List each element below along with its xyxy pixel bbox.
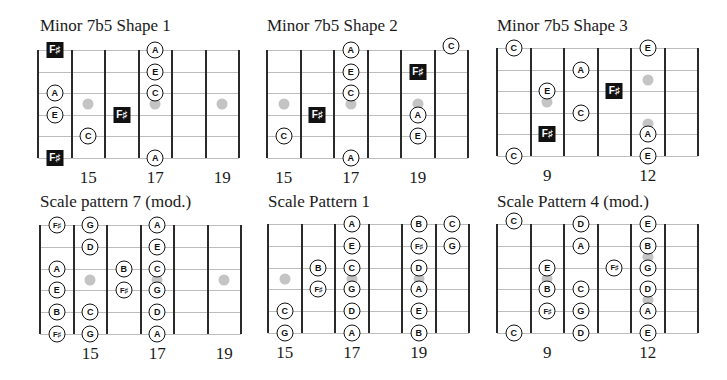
- fret-line: [240, 225, 242, 334]
- note-marker: E: [342, 63, 359, 80]
- fret-number-label: 9: [543, 343, 552, 363]
- note-marker: F♯: [539, 303, 556, 320]
- fret-line: [71, 50, 73, 158]
- fret-number-label: 19: [216, 344, 233, 364]
- note-marker: A: [48, 260, 65, 277]
- root-note-marker: F♯: [309, 107, 326, 123]
- fret-inlay-dot: [219, 274, 230, 285]
- note-marker: D: [149, 304, 166, 321]
- note-marker: B: [410, 325, 427, 342]
- panel-title: Scale Pattern 4 (mod.): [497, 192, 649, 212]
- fret-line: [697, 48, 699, 156]
- note-marker: B: [48, 304, 65, 321]
- note-marker: E: [46, 106, 63, 123]
- note-marker: C: [444, 216, 461, 233]
- fret-number-label: 15: [80, 168, 97, 188]
- fret-line: [138, 50, 140, 158]
- fret-line: [664, 224, 666, 333]
- note-marker: G: [444, 237, 461, 254]
- note-marker: A: [149, 326, 166, 343]
- note-marker: A: [46, 85, 63, 102]
- fret-line: [333, 50, 335, 158]
- note-marker: C: [505, 212, 522, 229]
- fret-line: [496, 224, 498, 333]
- fret-number-label: 17: [343, 343, 360, 363]
- note-marker: B: [115, 260, 132, 277]
- fret-line: [563, 48, 565, 156]
- note-marker: A: [342, 150, 359, 167]
- note-marker: C: [149, 260, 166, 277]
- fret-line: [401, 224, 403, 333]
- fret-line: [73, 225, 75, 334]
- string-line: [497, 333, 698, 334]
- note-marker: D: [572, 216, 589, 233]
- fret-inlay-dot: [83, 99, 94, 110]
- note-marker: B: [410, 216, 427, 233]
- fret-number-label: 15: [82, 344, 99, 364]
- fret-inlay-dot: [217, 99, 228, 110]
- fret-line: [39, 225, 41, 334]
- note-marker: G: [149, 282, 166, 299]
- note-marker: A: [343, 216, 360, 233]
- note-marker: D: [639, 281, 656, 298]
- note-marker: C: [276, 303, 293, 320]
- fret-line: [530, 224, 532, 333]
- fret-line: [563, 224, 565, 333]
- note-marker: C: [80, 128, 97, 145]
- fret-line: [368, 224, 370, 333]
- note-marker: G: [343, 281, 360, 298]
- string-line: [40, 334, 241, 335]
- note-marker: A: [343, 325, 360, 342]
- note-marker: E: [343, 237, 360, 254]
- note-marker: E: [639, 40, 656, 57]
- note-marker: C: [147, 85, 164, 102]
- fret-line: [207, 225, 209, 334]
- note-marker: A: [409, 106, 426, 123]
- note-marker: E: [410, 303, 427, 320]
- fret-line: [367, 50, 369, 158]
- fret-line: [104, 50, 106, 158]
- note-marker: D: [572, 325, 589, 342]
- fret-line: [468, 224, 470, 333]
- fret-line: [597, 48, 599, 156]
- fret-line: [496, 48, 498, 156]
- note-marker: G: [82, 326, 99, 343]
- fret-number-label: 19: [214, 168, 231, 188]
- fret-number-label: 19: [409, 168, 426, 188]
- note-marker: G: [572, 303, 589, 320]
- root-note-marker: F♯: [539, 126, 556, 142]
- note-marker: F♯: [115, 282, 132, 299]
- fret-number-label: 15: [275, 168, 292, 188]
- note-marker: E: [539, 259, 556, 276]
- note-marker: G: [276, 325, 293, 342]
- fret-line: [334, 224, 336, 333]
- string-line: [267, 158, 468, 159]
- panel-title: Scale Pattern 1: [268, 192, 370, 212]
- note-marker: C: [505, 148, 522, 165]
- fret-inlay-dot: [279, 273, 290, 284]
- fret-inlay-dot: [278, 99, 289, 110]
- note-marker: E: [639, 216, 656, 233]
- fret-line: [301, 224, 303, 333]
- note-marker: C: [572, 281, 589, 298]
- note-marker: F♯: [410, 237, 427, 254]
- fret-line: [597, 224, 599, 333]
- fret-inlay-dot: [85, 274, 96, 285]
- note-marker: E: [48, 282, 65, 299]
- fret-number-label: 9: [543, 166, 552, 186]
- note-marker: E: [147, 63, 164, 80]
- fret-line: [300, 50, 302, 158]
- fret-inlay-dot: [642, 75, 653, 86]
- fret-line: [106, 225, 108, 334]
- note-marker: A: [410, 281, 427, 298]
- panel-title: Minor 7b5 Shape 2: [267, 16, 398, 36]
- note-marker: B: [639, 237, 656, 254]
- note-marker: B: [539, 281, 556, 298]
- string-line: [268, 333, 469, 334]
- fret-line: [37, 50, 39, 158]
- note-marker: D: [410, 259, 427, 276]
- note-marker: E: [639, 325, 656, 342]
- note-marker: C: [343, 259, 360, 276]
- note-marker: D: [343, 303, 360, 320]
- note-marker: F♯: [606, 259, 623, 276]
